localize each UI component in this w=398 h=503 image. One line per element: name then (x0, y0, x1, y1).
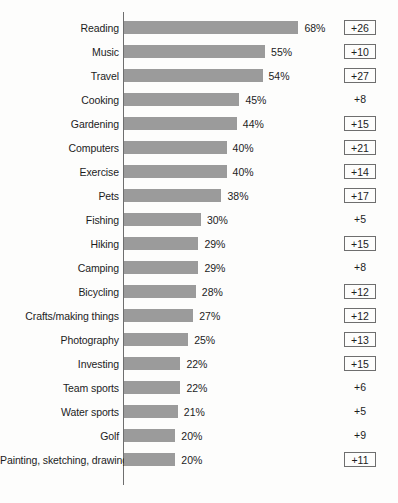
index-change-badge-boxed: +12 (344, 284, 376, 299)
chart-row: Reading68%+26 (0, 16, 398, 40)
category-label: Travel (0, 64, 119, 88)
bar-value-label: 55% (271, 40, 292, 64)
chart-row: Pets38%+17 (0, 184, 398, 208)
index-change-badge-boxed: +27 (344, 68, 376, 83)
bar-value-label: 22% (186, 352, 207, 376)
category-label: Photography (0, 328, 119, 352)
index-change-badge-boxed: +15 (344, 116, 376, 131)
bar (124, 405, 178, 418)
bar (124, 357, 180, 370)
horizontal-bar-chart: Reading68%+26Music55%+10Travel54%+27Cook… (0, 0, 398, 503)
index-change-badge-boxed: +10 (344, 44, 376, 59)
bar-value-label: 22% (186, 376, 207, 400)
chart-row: Investing22%+15 (0, 352, 398, 376)
index-change-badge-boxed: +26 (344, 20, 376, 35)
bar-value-label: 28% (202, 280, 223, 304)
category-label: Computers (0, 136, 119, 160)
bar-value-label: 40% (233, 136, 254, 160)
bar-value-label: 29% (204, 256, 225, 280)
chart-row: Painting, sketching, drawing20%+11 (0, 448, 398, 472)
bar (124, 309, 193, 322)
bar (124, 141, 227, 154)
chart-row: Crafts/making things27%+12 (0, 304, 398, 328)
category-label: Painting, sketching, drawing (0, 448, 119, 472)
index-change-badge: +5 (344, 212, 376, 227)
bar-value-label: 29% (204, 232, 225, 256)
chart-row: Music55%+10 (0, 40, 398, 64)
bar (124, 117, 237, 130)
chart-row: Fishing30%+5 (0, 208, 398, 232)
bar (124, 21, 298, 34)
chart-row: Cooking45%+8 (0, 88, 398, 112)
bar (124, 237, 198, 250)
category-label: Reading (0, 16, 119, 40)
index-change-badge: +8 (344, 260, 376, 275)
index-change-badge-boxed: +11 (344, 452, 376, 467)
bar-value-label: 30% (207, 208, 228, 232)
index-change-badge: +9 (344, 428, 376, 443)
bar (124, 165, 227, 178)
bar (124, 333, 188, 346)
category-label: Hiking (0, 232, 119, 256)
index-change-badge: +8 (344, 92, 376, 107)
category-label: Camping (0, 256, 119, 280)
chart-row: Golf20%+9 (0, 424, 398, 448)
bar (124, 453, 175, 466)
bar-value-label: 25% (194, 328, 215, 352)
chart-row: Computers40%+21 (0, 136, 398, 160)
bar (124, 381, 180, 394)
bar-value-label: 27% (199, 304, 220, 328)
bar (124, 429, 175, 442)
bar-value-label: 20% (181, 424, 202, 448)
bar (124, 69, 263, 82)
chart-row: Bicycling28%+12 (0, 280, 398, 304)
category-label: Investing (0, 352, 119, 376)
bar-value-label: 20% (181, 448, 202, 472)
category-label: Gardening (0, 112, 119, 136)
chart-row: Photography25%+13 (0, 328, 398, 352)
category-label: Water sports (0, 400, 119, 424)
index-change-badge-boxed: +14 (344, 164, 376, 179)
bar-value-label: 68% (304, 16, 325, 40)
category-label: Fishing (0, 208, 119, 232)
chart-row: Travel54%+27 (0, 64, 398, 88)
category-label: Exercise (0, 160, 119, 184)
chart-row: Hiking29%+15 (0, 232, 398, 256)
index-change-badge-boxed: +17 (344, 188, 376, 203)
chart-row: Camping29%+8 (0, 256, 398, 280)
category-label: Music (0, 40, 119, 64)
bar (124, 213, 201, 226)
category-label: Crafts/making things (0, 304, 119, 328)
bar (124, 261, 198, 274)
index-change-badge-boxed: +12 (344, 308, 376, 323)
chart-row: Water sports21%+5 (0, 400, 398, 424)
bar-value-label: 44% (243, 112, 264, 136)
chart-row: Team sports22%+6 (0, 376, 398, 400)
index-change-badge: +6 (344, 380, 376, 395)
bar-value-label: 38% (227, 184, 248, 208)
index-change-badge-boxed: +21 (344, 140, 376, 155)
category-label: Team sports (0, 376, 119, 400)
bar-value-label: 21% (184, 400, 205, 424)
bar-value-label: 45% (245, 88, 266, 112)
index-change-badge-boxed: +13 (344, 332, 376, 347)
category-label: Pets (0, 184, 119, 208)
chart-row: Gardening44%+15 (0, 112, 398, 136)
bar (124, 285, 196, 298)
bar-value-label: 54% (269, 64, 290, 88)
bar-value-label: 40% (233, 160, 254, 184)
chart-row: Exercise40%+14 (0, 160, 398, 184)
category-label: Golf (0, 424, 119, 448)
category-label: Bicycling (0, 280, 119, 304)
bar (124, 45, 265, 58)
bar (124, 93, 239, 106)
bar (124, 189, 221, 202)
index-change-badge-boxed: +15 (344, 356, 376, 371)
index-change-badge-boxed: +15 (344, 236, 376, 251)
index-change-badge: +5 (344, 404, 376, 419)
category-label: Cooking (0, 88, 119, 112)
